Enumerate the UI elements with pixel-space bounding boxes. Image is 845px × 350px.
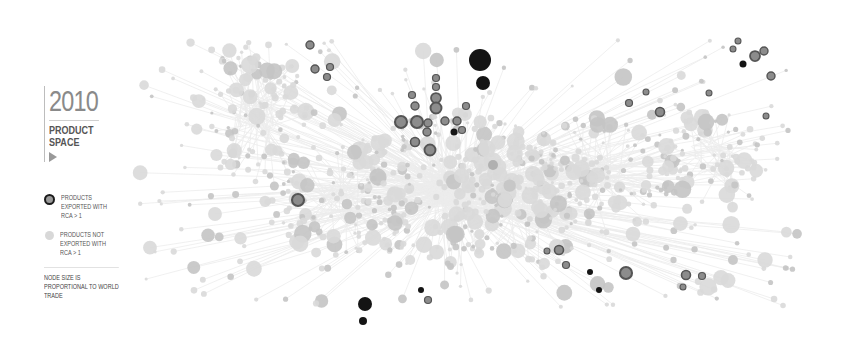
rca-node[interactable]: [767, 72, 775, 80]
rca-node[interactable]: [760, 47, 768, 55]
legend: PRODUCTS EXPORTED WITH RCA > 1 PRODUCTS …: [44, 193, 119, 300]
rca-node[interactable]: [431, 103, 442, 114]
rca-node[interactable]: [425, 145, 436, 156]
rca-node[interactable]: [459, 127, 466, 134]
rca-node[interactable]: [453, 117, 461, 125]
rca-node[interactable]: [306, 41, 314, 49]
rca-node[interactable]: [424, 119, 432, 127]
title-line-2: SPACE: [49, 137, 106, 148]
product-space-network[interactable]: [0, 0, 845, 350]
rca-node[interactable]: [292, 194, 304, 206]
rca-node[interactable]: [359, 317, 367, 325]
light-dot-swatch-icon: [45, 231, 54, 240]
rca-node[interactable]: [643, 89, 649, 95]
rca-node[interactable]: [544, 248, 550, 254]
play-triangle-icon[interactable]: [49, 152, 57, 162]
dark-ring-swatch-icon: [44, 194, 55, 205]
rca-node[interactable]: [763, 113, 769, 119]
rca-node[interactable]: [740, 61, 747, 68]
legend-item-not-rca: PRODUCTS NOT EXPORTED WITH RCA > 1: [44, 230, 119, 257]
rca-node[interactable]: [327, 64, 334, 71]
node-size-note: NODE SIZE IS PROPORTIONAL TO WORLD TRADE: [44, 267, 119, 300]
legend-label-not-rca: PRODUCTS NOT EXPORTED WITH RCA > 1: [60, 230, 110, 257]
rca-node[interactable]: [418, 287, 424, 293]
year-label: 2010: [49, 86, 99, 121]
rca-node[interactable]: [358, 297, 372, 311]
legend-label-rca: PRODUCTS EXPORTED WITH RCA > 1: [61, 193, 110, 220]
rca-node[interactable]: [656, 108, 665, 117]
rca-node[interactable]: [411, 138, 420, 147]
rca-node[interactable]: [411, 102, 419, 110]
rca-node[interactable]: [431, 93, 441, 103]
rca-node[interactable]: [488, 160, 498, 170]
rca-node[interactable]: [433, 84, 440, 91]
rca-node[interactable]: [750, 51, 760, 61]
title-block: 2010 PRODUCT SPACE: [44, 86, 119, 162]
rca-node[interactable]: [425, 297, 432, 304]
rca-node[interactable]: [395, 116, 407, 128]
rca-node[interactable]: [451, 129, 458, 136]
title-line-1: PRODUCT: [49, 125, 106, 136]
rca-node[interactable]: [409, 92, 416, 99]
rca-node[interactable]: [469, 49, 491, 71]
rca-node[interactable]: [735, 38, 741, 44]
rca-node[interactable]: [433, 75, 440, 82]
rca-node[interactable]: [463, 103, 470, 110]
rca-node[interactable]: [706, 90, 712, 96]
rca-node[interactable]: [441, 117, 449, 125]
rca-node[interactable]: [682, 271, 691, 280]
rca-node[interactable]: [730, 46, 736, 52]
rca-node[interactable]: [620, 267, 632, 279]
rca-node[interactable]: [626, 100, 633, 107]
rca-node[interactable]: [680, 284, 686, 290]
rca-node[interactable]: [555, 246, 564, 255]
rca-node[interactable]: [699, 273, 706, 280]
legend-item-rca: PRODUCTS EXPORTED WITH RCA > 1: [44, 193, 119, 220]
rca-node[interactable]: [596, 287, 602, 293]
rca-node[interactable]: [311, 65, 319, 73]
rca-node[interactable]: [587, 269, 593, 275]
rca-node[interactable]: [411, 116, 423, 128]
rca-node[interactable]: [476, 76, 490, 90]
rca-node[interactable]: [563, 262, 570, 269]
rca-node[interactable]: [324, 74, 331, 81]
rca-node[interactable]: [423, 128, 431, 136]
